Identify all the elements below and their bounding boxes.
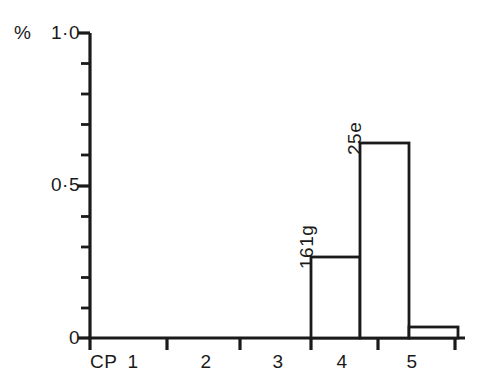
chart-plot-area <box>0 0 482 391</box>
bar-25e <box>360 143 409 338</box>
y-axis-major-ticks <box>78 33 90 338</box>
chart-figure: % 1·0 0·5 0 CP 1 2 3 4 5 161g 25e 19 g <box>0 0 482 391</box>
bar-19g <box>409 327 458 338</box>
x-axis-ticks <box>90 338 455 350</box>
bar-161g <box>311 257 360 338</box>
bar-series <box>311 143 458 338</box>
